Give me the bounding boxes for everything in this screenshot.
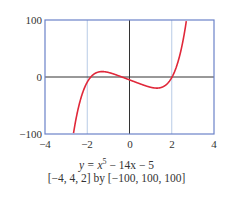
caption-suffix: − 14x − 5 [107,159,154,171]
window-caption: [−4, 4, 2] by [−100, 100, 100] [0,172,233,184]
y-tick-100: 100 [26,14,43,26]
x-tick-4: 4 [211,138,217,150]
y-tick-0: 0 [37,71,43,83]
x-tick-2: 2 [169,138,175,150]
caption-prefix: y = x [79,159,103,171]
function-caption: y = x5 − 14x − 5 [0,157,233,171]
x-tick-minus-4: −4 [39,138,51,150]
x-tick-minus-2: −2 [81,138,93,150]
axes [45,20,214,134]
x-tick-0: 0 [127,138,133,150]
